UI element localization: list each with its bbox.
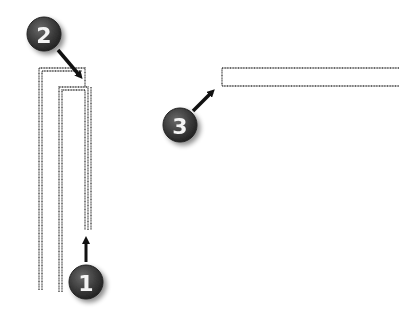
callout-label-2: 2 [36,23,51,48]
callout-badge-2: 2 [27,17,61,51]
diagram-canvas: 2 1 3 [0,0,399,327]
callout-badge-1: 1 [69,265,103,299]
arrow-3 [193,92,212,111]
callout-label-3: 3 [172,114,187,139]
callout-badge-3: 3 [163,108,197,142]
callout-label-1: 1 [78,271,93,296]
arrow-2 [58,50,80,76]
diagram-svg: 2 1 3 [0,0,399,327]
horizontal-bar [222,68,399,86]
